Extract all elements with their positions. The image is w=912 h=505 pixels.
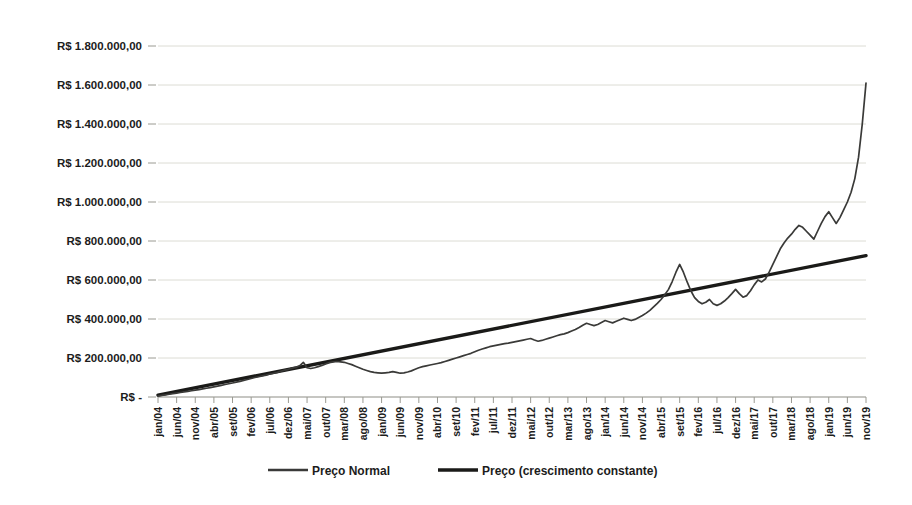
- x-axis-label: mai/17: [748, 407, 760, 440]
- legend-label: Preço Normal: [312, 464, 390, 478]
- y-axis-tick-labels: R$ -R$ 200.000,00R$ 400.000,00R$ 600.000…: [57, 40, 142, 403]
- y-axis-label: R$ 1.000.000,00: [57, 196, 142, 208]
- x-axis-label: fev/11: [469, 407, 481, 436]
- line-preco-normal: [158, 83, 866, 396]
- line-preco-crescimento-constante: [158, 256, 866, 395]
- chart-legend: Preço NormalPreço (crescimento constante…: [268, 464, 657, 478]
- x-axis-tick-marks: [158, 397, 866, 403]
- gridlines-group: [148, 46, 866, 397]
- price-growth-line-chart: R$ -R$ 200.000,00R$ 400.000,00R$ 600.000…: [0, 0, 912, 505]
- x-axis-label: nov/04: [189, 407, 201, 440]
- y-axis-label: R$ 1.400.000,00: [57, 118, 142, 130]
- x-axis-label: abr/10: [431, 407, 443, 438]
- chart-container: R$ -R$ 200.000,00R$ 400.000,00R$ 600.000…: [0, 0, 912, 505]
- x-axis-label: ago/08: [357, 407, 369, 440]
- x-axis-label: out/07: [320, 407, 332, 438]
- x-axis-label: out/12: [543, 407, 555, 438]
- x-axis-label: dez/11: [506, 407, 518, 439]
- x-axis-label: mar/13: [562, 407, 574, 441]
- x-axis-label: nov/09: [413, 407, 425, 440]
- series-preco-constante: [158, 256, 866, 395]
- x-axis-tick-labels: jan/04jun/04nov/04abr/05set/05fev/06jul/…: [152, 407, 872, 441]
- x-axis-label: set/05: [227, 407, 239, 437]
- x-axis-label: nov/14: [636, 407, 648, 440]
- x-axis-label: jul/11: [487, 407, 499, 434]
- y-axis-label: R$ 800.000,00: [67, 235, 142, 247]
- x-axis-label: jan/19: [823, 407, 835, 438]
- x-axis-label: abr/05: [208, 407, 220, 438]
- x-axis-label: abr/15: [655, 407, 667, 438]
- x-axis-label: fev/06: [245, 407, 257, 437]
- y-axis-label: R$ 400.000,00: [67, 313, 142, 325]
- x-axis-label: ago/18: [804, 407, 816, 440]
- x-axis-label: jun/14: [618, 407, 630, 439]
- x-axis-label: jun/04: [171, 407, 183, 439]
- x-axis-label: jun/09: [394, 407, 406, 439]
- x-axis-label: jan/14: [599, 407, 611, 438]
- x-axis-label: mar/08: [338, 407, 350, 441]
- y-axis-label: R$ 600.000,00: [67, 274, 142, 286]
- x-axis-label: jun/19: [841, 407, 853, 439]
- x-axis-label: jul/16: [711, 407, 723, 435]
- x-axis-label: ago/13: [581, 407, 593, 440]
- x-axis-label: nov/19: [860, 407, 872, 440]
- x-axis-label: set/10: [450, 407, 462, 437]
- x-axis-label: set/15: [674, 407, 686, 437]
- y-axis-label: R$ 1.800.000,00: [57, 40, 142, 52]
- x-axis-label: jan/04: [152, 407, 164, 438]
- legend-label: Preço (crescimento constante): [482, 464, 657, 478]
- series-preco-normal: [158, 83, 866, 396]
- x-axis-label: dez/16: [730, 407, 742, 439]
- x-axis-label: out/17: [767, 407, 779, 438]
- x-axis-label: jan/09: [376, 407, 388, 438]
- y-axis-label: R$ 1.600.000,00: [57, 79, 142, 91]
- x-axis-label: mar/18: [785, 407, 797, 441]
- y-axis-label: R$ 1.200.000,00: [57, 157, 142, 169]
- y-axis-label: R$ -: [120, 391, 142, 403]
- y-axis-label: R$ 200.000,00: [67, 352, 142, 364]
- x-axis-label: mai/12: [525, 407, 537, 440]
- x-axis-label: fev/16: [692, 407, 704, 437]
- x-axis-label: mai/07: [301, 407, 313, 440]
- x-axis-label: jul/06: [264, 407, 276, 435]
- x-axis-label: dez/06: [282, 407, 294, 439]
